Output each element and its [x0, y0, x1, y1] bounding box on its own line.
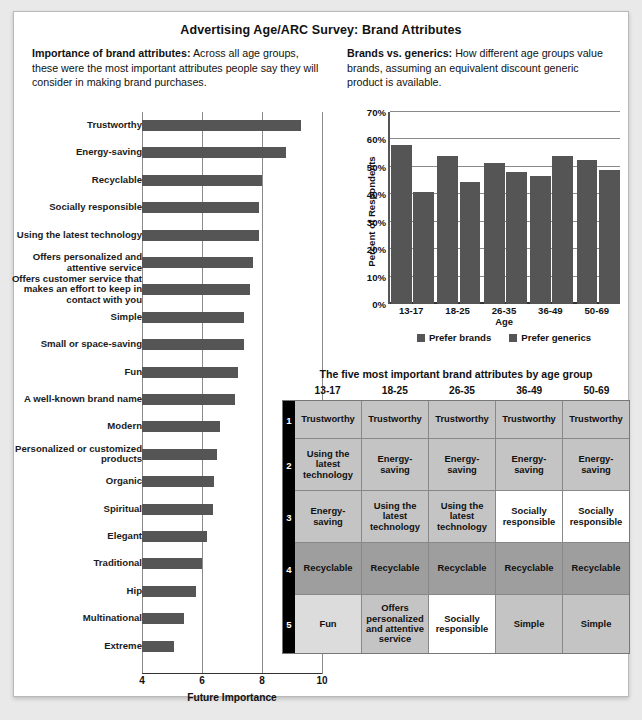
bar-segment — [142, 421, 220, 432]
bar-segment — [142, 175, 262, 186]
table-row: TrustworthyTrustworthyTrustworthyTrustwo… — [295, 401, 629, 439]
bar-segment — [142, 504, 213, 515]
column-group — [483, 112, 529, 304]
table-cell: Recyclable — [361, 543, 428, 595]
bar-label: Multinational — [2, 613, 142, 624]
intro-right-heading: Brands vs. generics: — [347, 47, 452, 59]
column-group — [390, 112, 436, 304]
column-chart-y-tick: 60% — [367, 134, 386, 145]
bar-label: Organic — [2, 476, 142, 487]
bar-chart-x-tick: 8 — [259, 675, 265, 686]
bar-chart-x-label: Future Importance — [142, 692, 322, 703]
table-row: Using the latest technologyEnergy-saving… — [295, 439, 629, 491]
legend-swatch — [509, 334, 517, 342]
bar-label: Traditional — [2, 558, 142, 569]
table-grid: 12345 TrustworthyTrustworthyTrustworthyT… — [282, 400, 630, 654]
table-cell: Energy-saving — [562, 439, 629, 491]
bar-segment — [142, 641, 174, 652]
bar-label: Hip — [2, 586, 142, 597]
bar-label: Energy-saving — [2, 147, 142, 158]
column-chart-y-tick: 70% — [367, 107, 386, 118]
bar-label: Modern — [2, 421, 142, 432]
table-cell: Offers personalized and attentive servic… — [361, 595, 428, 653]
column-chart-y-tick: 40% — [367, 189, 386, 200]
bar-segment — [142, 558, 202, 569]
table-cell: Recyclable — [295, 543, 361, 595]
column-bar — [413, 192, 434, 304]
table-cell: Socially responsible — [495, 491, 562, 543]
legend-swatch — [417, 334, 425, 342]
column-bar — [391, 145, 412, 304]
column-bar — [506, 172, 527, 304]
bar-label: Trustworthy — [2, 120, 142, 131]
column-chart-plot: 0%10%20%30%40%50%60%70% — [388, 112, 620, 304]
table-cell: Recyclable — [562, 543, 629, 595]
bar-segment — [142, 312, 244, 323]
bar-segment — [142, 531, 207, 542]
bar-label: Extreme — [2, 641, 142, 652]
bar-segment — [142, 367, 238, 378]
intro-left-heading: Importance of brand attributes: — [32, 47, 191, 59]
table-column-header: 36-49 — [496, 385, 563, 396]
bar-segment — [142, 284, 250, 295]
bar-segment — [142, 586, 196, 597]
bar-segment — [142, 394, 235, 405]
legend-label: Prefer generics — [521, 332, 591, 343]
table-row: RecyclableRecyclableRecyclableRecyclable… — [295, 543, 629, 595]
column-chart-x-tick: 26-35 — [492, 305, 517, 316]
intro-left: Importance of brand attributes: Across a… — [32, 46, 322, 90]
intro-right: Brands vs. generics: How different age g… — [347, 46, 617, 90]
column-bar — [437, 156, 458, 304]
table-cell: Energy-saving — [495, 439, 562, 491]
table-row: FunOffers personalized and attentive ser… — [295, 595, 629, 653]
bar-label: Personalized or customized products — [2, 444, 142, 465]
bar-segment — [142, 449, 217, 460]
table-cell: Trustworthy — [361, 401, 428, 439]
bar-segment — [142, 613, 184, 624]
bar-label: A well-known brand name — [2, 394, 142, 405]
bar-label: Offers customer service that makes an ef… — [2, 274, 142, 306]
column-chart-x-tick: 13-17 — [399, 305, 424, 316]
bar-label: Small or space-saving — [2, 339, 142, 350]
bar-label: Elegant — [2, 531, 142, 542]
column-chart-y-tick: 30% — [367, 216, 386, 227]
table-cell: Trustworthy — [562, 401, 629, 439]
legend-item: Prefer brands — [417, 332, 491, 343]
table-cell: Energy-saving — [428, 439, 495, 491]
table-cell: Socially responsible — [562, 491, 629, 543]
bar-segment — [142, 476, 214, 487]
table-row: Energy-savingUsing the latest technology… — [295, 491, 629, 543]
column-chart-x-tick: 36-49 — [538, 305, 563, 316]
bar-label: Spiritual — [2, 504, 142, 515]
table-cell: Using the latest technology — [295, 439, 361, 491]
column-bar — [552, 156, 573, 304]
table-rank: 5 — [283, 595, 295, 653]
column-chart-x-label: Age — [388, 316, 620, 327]
bar-label: Using the latest technology — [2, 230, 142, 241]
bar-chart-x-tick: 4 — [139, 675, 145, 686]
table-cell: Recyclable — [428, 543, 495, 595]
column-chart-y-tick: 20% — [367, 244, 386, 255]
column-group — [576, 112, 622, 304]
page-title: Advertising Age/ARC Survey: Brand Attrib… — [14, 23, 628, 37]
table-rank: 4 — [283, 543, 295, 595]
table-column-headers: 13-1718-2526-3536-4950-69 — [282, 385, 630, 396]
table-cell: Socially responsible — [428, 595, 495, 653]
bar-segment — [142, 202, 259, 213]
legend-label: Prefer brands — [429, 332, 491, 343]
column-bar — [460, 182, 481, 304]
table-cell: Trustworthy — [495, 401, 562, 439]
table-cell: Using the latest technology — [361, 491, 428, 543]
infographic-card: Advertising Age/ARC Survey: Brand Attrib… — [13, 11, 629, 697]
bar-label: Offers personalized and attentive servic… — [2, 252, 142, 273]
bar-label: Fun — [2, 367, 142, 378]
table-cell: Recyclable — [495, 543, 562, 595]
table-cell: Energy-saving — [295, 491, 361, 543]
table-cell: Trustworthy — [428, 401, 495, 439]
table-cell: Fun — [295, 595, 361, 653]
bar-label: Recyclable — [2, 175, 142, 186]
bar-segment — [142, 339, 244, 350]
table-rank: 3 — [283, 491, 295, 543]
column-group — [529, 112, 575, 304]
table-cell: Energy-saving — [361, 439, 428, 491]
